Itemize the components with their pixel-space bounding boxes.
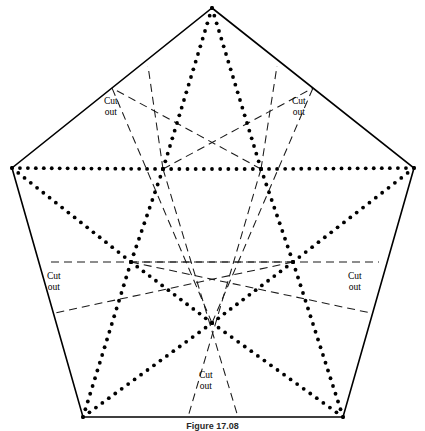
cut-out-left: Cutout [47, 271, 61, 292]
dotted-line-ray-r-to-right [291, 166, 416, 264]
dotted-line-ray-l-to-left [10, 166, 133, 264]
dotted-line-inner-edge-tl-tr [161, 167, 263, 171]
dashed-guide-dash-b-to-top-left-edge [112, 88, 212, 323]
cut-out-top-right: Cutout [292, 96, 306, 117]
cut-out-right: Cutout [348, 271, 362, 292]
dotted-line-ray-b-to-bl [81, 321, 214, 419]
dashed-guide-dash-tr-up-right [261, 66, 277, 169]
dotted-line-ray-tr-to-right [259, 166, 416, 171]
dashed-cut-guides [46, 66, 379, 417]
dotted-line-inner-edge-l-tl [129, 167, 165, 264]
dashed-guide-dash-l-to-edge-lowerright [131, 262, 371, 313]
dotted-line-inner-edge-r-b [210, 260, 295, 325]
cut-out-label-line1: Cut [199, 370, 213, 381]
cut-out-label-line1: Cut [104, 96, 118, 107]
cut-out-label-line1: Cut [47, 271, 61, 282]
dotted-line-ray-r-to-br [291, 260, 345, 419]
cut-out-label-line1: Cut [292, 96, 306, 107]
outer-pentagon-outline [12, 8, 414, 417]
outer-pentagon-path [12, 8, 414, 417]
figure-canvas: CutoutCutoutCutoutCutoutCutout Figure 17… [0, 0, 425, 431]
dashed-guide-dash-b-to-top-right-edge [212, 88, 313, 323]
dotted-line-ray-tl-to-top [161, 6, 214, 171]
cut-out-label-line2: out [199, 381, 213, 392]
dotted-fold-lines [10, 6, 416, 419]
figure-caption: Figure 17.08 [0, 421, 425, 431]
dotted-line-ray-b-to-br [210, 321, 345, 419]
pentagon-diagram [0, 0, 425, 431]
dashed-guide-dash-tl-up-left [148, 66, 163, 169]
dotted-line-ray-l-to-bl [81, 260, 133, 419]
cut-out-bottom: Cutout [199, 370, 213, 391]
cut-out-label-line2: out [104, 107, 118, 118]
dashed-guide-dash-r-to-edge-lowerleft [55, 262, 293, 313]
dotted-line-inner-edge-b-l [129, 260, 214, 325]
cut-out-label-line2: out [348, 282, 362, 293]
cut-out-top-left: Cutout [104, 96, 118, 117]
cut-out-label-line2: out [47, 282, 61, 293]
cut-out-label-line1: Cut [348, 271, 362, 282]
dotted-line-ray-tl-to-left [10, 166, 165, 171]
dotted-line-inner-edge-tr-r [259, 167, 295, 264]
cut-out-label-line2: out [292, 107, 306, 118]
dotted-line-ray-tr-to-top [210, 6, 263, 171]
